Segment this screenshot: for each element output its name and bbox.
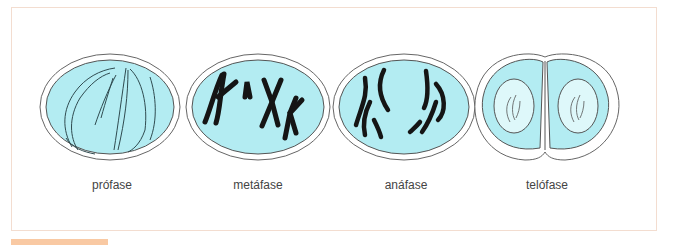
label-prophase: prófase	[52, 178, 172, 192]
metaphase-cell	[186, 54, 330, 160]
label-telophase: telófase	[487, 178, 607, 192]
anaphase-cell	[333, 54, 475, 160]
label-anaphase: anáfase	[346, 178, 466, 192]
label-metaphase: metáfase	[198, 178, 318, 192]
telophase-cell	[475, 54, 619, 160]
accent-tab	[11, 239, 108, 245]
prophase-cell	[40, 54, 180, 160]
